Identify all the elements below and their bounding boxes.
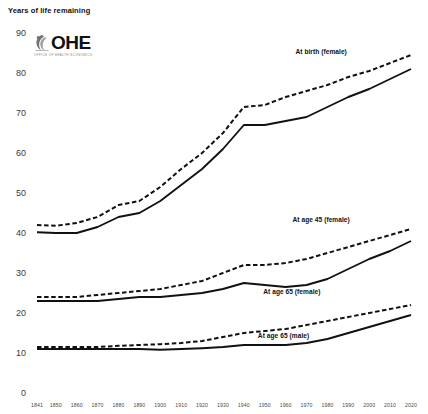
y-axis-tick-label: 70 [2, 108, 26, 118]
y-axis-tick-label: 20 [2, 308, 26, 318]
plot-area [0, 0, 428, 414]
y-axis-tick-label: 0 [2, 388, 26, 398]
series-line [37, 69, 411, 233]
life-expectancy-chart: Years of life remaining OHE OFFICE OF HE… [0, 0, 428, 414]
series-line [37, 229, 411, 297]
y-axis-tick-label: 10 [2, 348, 26, 358]
y-axis-tick-label: 60 [2, 148, 26, 158]
series-annotation-label: At age 45 (female) [292, 216, 349, 223]
y-axis-tick-label: 40 [2, 228, 26, 238]
series-annotation-label: At age 65 (male) [258, 332, 309, 339]
y-axis-tick-label: 50 [2, 188, 26, 198]
x-axis-tick-label: 2020 [398, 402, 424, 409]
series-line [37, 55, 411, 226]
y-axis-tick-label: 30 [2, 268, 26, 278]
series-annotation-label: At age 65 (female) [263, 288, 320, 295]
series-annotation-label: At birth (female) [295, 48, 346, 55]
y-axis-tick-label: 90 [2, 28, 26, 38]
y-axis-tick-label: 80 [2, 68, 26, 78]
series-line [37, 305, 411, 347]
series-line [37, 241, 411, 301]
series-line [37, 315, 411, 350]
series-layer [37, 55, 411, 350]
